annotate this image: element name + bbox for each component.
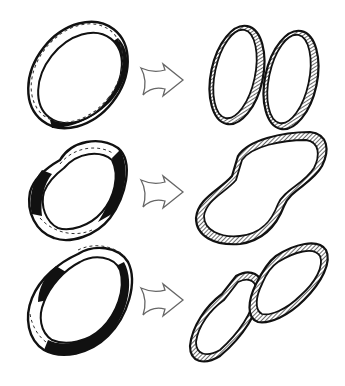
row-1-after-loop-a bbox=[201, 21, 273, 130]
row-2-before-mobius-strip bbox=[29, 141, 127, 240]
row-1-before-loop bbox=[8, 2, 149, 148]
row-1-after-loop-b bbox=[255, 26, 327, 135]
row-2-arrow-icon bbox=[141, 176, 183, 208]
row-2-after-long-loop bbox=[196, 132, 326, 244]
row-1-arrow-icon bbox=[141, 64, 183, 96]
row-3-arrow-icon bbox=[141, 284, 183, 316]
row-3-after-linked-loop-b bbox=[250, 243, 328, 322]
row-3-before-twisted-strip bbox=[28, 246, 132, 355]
illustration-canvas: Hand-drawn illustration of band/strip cu… bbox=[0, 0, 345, 386]
